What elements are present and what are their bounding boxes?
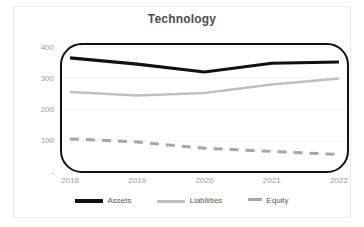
x-axis-tick-label: 2021 bbox=[252, 176, 292, 186]
y-axis: -100200300400 bbox=[20, 0, 54, 227]
x-axis: 20182019202020212022 bbox=[0, 176, 364, 188]
legend-item-liabilities[interactable]: Liabilities bbox=[157, 196, 222, 206]
series-line-liabilities bbox=[70, 79, 339, 96]
y-axis-tick-label: 300 bbox=[24, 74, 54, 83]
x-axis-tick-label: 2022 bbox=[319, 176, 359, 186]
y-axis-tick-label: 100 bbox=[24, 136, 54, 145]
legend-swatch-icon bbox=[157, 200, 185, 203]
legend-swatch-icon bbox=[75, 199, 103, 203]
legend-item-equity[interactable]: Equity bbox=[248, 196, 288, 206]
chart-container: Technology -100200300400 201820192020202… bbox=[0, 0, 364, 227]
plot-area bbox=[60, 43, 349, 173]
legend-label: Liabilities bbox=[189, 196, 222, 206]
legend-item-assets[interactable]: Assets bbox=[75, 196, 131, 206]
x-axis-tick-label: 2020 bbox=[185, 176, 225, 186]
x-axis-tick-label: 2019 bbox=[117, 176, 157, 186]
y-axis-tick-label: 400 bbox=[24, 43, 54, 52]
chart-title: Technology bbox=[0, 12, 364, 26]
chart-legend: AssetsLiabilitiesEquity bbox=[0, 196, 364, 206]
x-axis-tick-label: 2018 bbox=[50, 176, 90, 186]
y-axis-tick-label: 200 bbox=[24, 105, 54, 114]
legend-label: Assets bbox=[107, 196, 131, 206]
legend-swatch-icon bbox=[248, 198, 262, 204]
series-lines bbox=[60, 43, 349, 173]
legend-label: Equity bbox=[266, 196, 288, 206]
series-line-assets bbox=[70, 58, 339, 72]
